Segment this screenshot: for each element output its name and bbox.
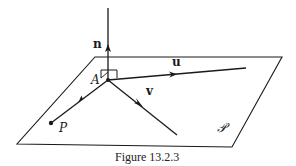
plane-outline	[17, 57, 282, 147]
label-v: v	[145, 84, 154, 98]
label-p: P	[58, 121, 68, 135]
label-n: n	[93, 37, 102, 51]
label-plane: 𝒫	[217, 120, 230, 135]
v-vector-line	[108, 80, 177, 135]
u-vector-line	[108, 68, 246, 80]
right-angle-marker	[101, 70, 117, 78]
point-a-dot	[106, 78, 110, 82]
label-u: u	[172, 55, 181, 69]
right-angle-marker-diag	[101, 72, 108, 78]
ap-arrow-icon	[78, 96, 85, 104]
label-a: A	[90, 73, 100, 87]
point-p-dot	[49, 121, 53, 125]
plane-vectors-diagram: n u v A P 𝒫 Figure 13.2.3	[0, 0, 296, 166]
figure-caption: Figure 13.2.3	[115, 150, 179, 164]
